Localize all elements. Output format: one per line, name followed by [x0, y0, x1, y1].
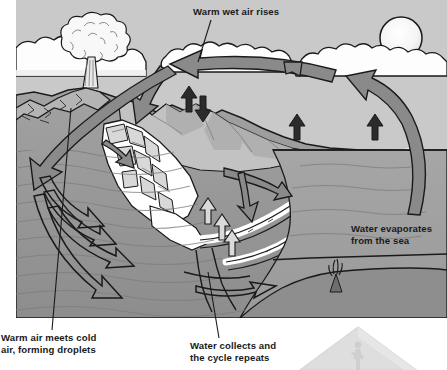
label-line-2: air, forming droplets — [1, 344, 96, 355]
label-water-evaporates-from-the-sea: Water evaporatesfrom the sea — [351, 223, 432, 247]
label-line-1: Warm air meets cold — [1, 332, 96, 343]
label-line-1: Water collects and — [190, 340, 276, 351]
label-line-2: the cycle repeats — [190, 352, 270, 363]
label-line-2: from the sea — [351, 235, 409, 246]
label-line-1: Water evaporates — [351, 223, 432, 234]
corner-mountain-badge — [300, 327, 416, 370]
label-warm-wet-air-rises: Warm wet air rises — [193, 6, 279, 18]
scene — [16, 0, 447, 318]
label-water-collects-and-cycle-repeats: Water collects andthe cycle repeats — [190, 340, 276, 364]
label-warm-air-meets-cold-air: Warm air meets coldair, forming droplets — [1, 332, 96, 356]
illustration-canvas — [0, 0, 447, 370]
water-cycle-diagram: Warm wet air rises Water evaporatesfrom … — [0, 0, 447, 370]
